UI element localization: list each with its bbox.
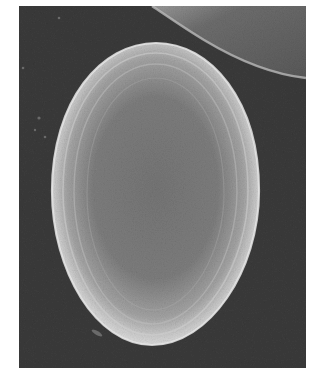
micrograph-frame: [19, 6, 306, 368]
micrograph-image: [19, 6, 306, 368]
